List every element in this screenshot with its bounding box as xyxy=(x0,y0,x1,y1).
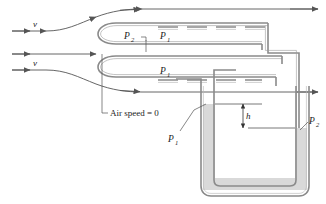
p1-manometer-label: P 1 xyxy=(167,134,178,146)
p1-manometer-subscript: 1 xyxy=(175,139,178,146)
velocity-label-lower: v xyxy=(33,58,37,68)
velocity-label-upper: v xyxy=(33,19,37,29)
liquid-levels xyxy=(215,104,295,128)
manometer-inner-u xyxy=(214,86,296,186)
tube-routing-right-inner xyxy=(265,26,296,190)
streamline-upper-arrow-mid xyxy=(120,9,140,10)
leader-p2-left-hook xyxy=(141,37,146,41)
manometer-inner-wall xyxy=(214,86,296,186)
streamline-lower-arrow-mid xyxy=(120,91,140,92)
p2-right-subscript: 2 xyxy=(316,121,320,128)
p1-upper-base: P xyxy=(159,31,166,41)
p1-upper-label: P 1 xyxy=(159,31,170,43)
p2-left-base: P xyxy=(123,31,130,41)
static-line-inner xyxy=(265,26,296,190)
p1-middle-base: P xyxy=(159,66,166,76)
p1-middle-subscript: 1 xyxy=(167,71,170,78)
p2-left-label: P 2 xyxy=(123,31,135,43)
tube-routing-right xyxy=(262,23,299,190)
p1-upper-subscript: 1 xyxy=(167,36,170,43)
manometer-inner-top-connect xyxy=(214,70,236,86)
height-dimension: h xyxy=(243,104,251,128)
p1-manometer-base: P xyxy=(167,134,174,144)
manometer-liquid xyxy=(203,104,307,190)
pitot-tube-figure: h v v P 2 P 1 P 1 Air xyxy=(0,0,326,204)
p2-left-subscript: 2 xyxy=(131,36,135,43)
leader-p1-manometer xyxy=(180,104,206,131)
air-speed-label: Air speed = 0 xyxy=(110,108,159,118)
stagnation-tube xyxy=(98,56,282,77)
stagnation-tube-nose xyxy=(98,56,282,77)
manometer-top-connections xyxy=(176,70,236,86)
manometer-outer-highlight xyxy=(203,86,306,193)
height-label: h xyxy=(246,111,251,121)
diagram-canvas: h v v P 2 P 1 P 1 Air xyxy=(0,0,326,204)
liquid-fill-body xyxy=(203,104,307,190)
stagnation-tube-nose-inner xyxy=(101,59,282,75)
stagnation-tube-inner-line xyxy=(101,59,282,75)
manometer-wall-highlights xyxy=(203,86,306,193)
static-line-to-manometer xyxy=(268,23,299,190)
p2-right-base: P xyxy=(308,116,315,126)
